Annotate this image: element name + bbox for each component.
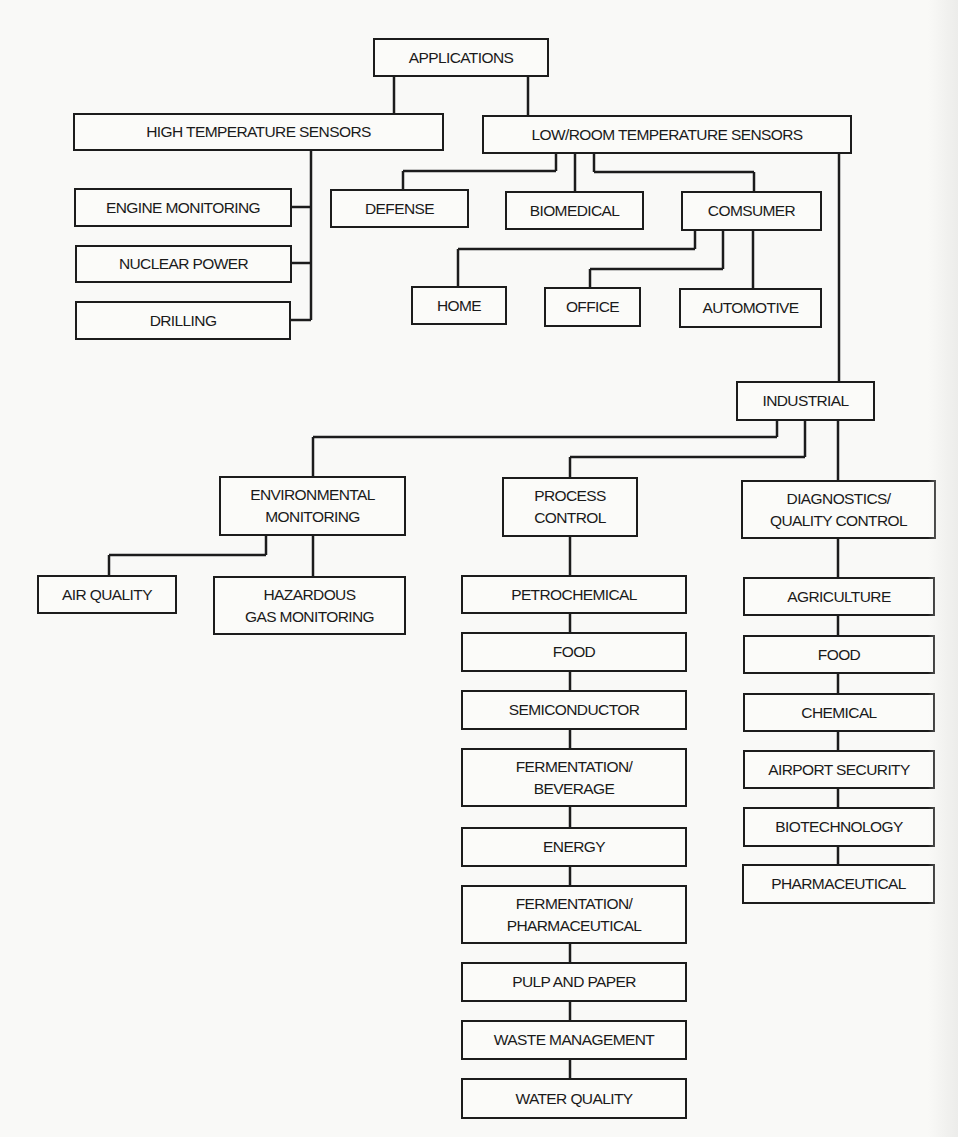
node-label: FOOD xyxy=(553,641,595,663)
page-edge-shadow xyxy=(928,0,958,1137)
node-label: HOME xyxy=(437,295,481,317)
node-agriculture: AGRICULTURE xyxy=(743,577,935,616)
node-label: NUCLEAR POWER xyxy=(119,253,248,275)
node-label: FOOD xyxy=(818,644,860,666)
node-label: DRILLING xyxy=(150,310,217,332)
node-label: PETROCHEMICAL xyxy=(511,584,637,606)
node-label-line1: ENVIRONMENTAL xyxy=(250,484,375,506)
node-label-line1: DIAGNOSTICS/ xyxy=(787,488,891,510)
node-label-line2: MONITORING xyxy=(265,506,359,528)
node-pharmaceutical: PHARMACEUTICAL xyxy=(742,864,935,904)
node-label: WASTE MANAGEMENT xyxy=(494,1029,654,1051)
node-process-control: PROCESS CONTROL xyxy=(502,477,638,537)
applications-tree-diagram: APPLICATIONS HIGH TEMPERATURE SENSORS EN… xyxy=(0,0,958,1137)
node-label: ENERGY xyxy=(543,836,605,858)
node-label: PULP AND PAPER xyxy=(512,971,636,993)
node-air-quality: AIR QUALITY xyxy=(37,575,177,614)
node-drilling: DRILLING xyxy=(75,301,291,340)
node-semiconductor: SEMICONDUCTOR xyxy=(461,690,687,730)
node-diagnostics-quality-control: DIAGNOSTICS/ QUALITY CONTROL xyxy=(741,480,936,539)
node-defense: DEFENSE xyxy=(330,189,469,228)
node-label: AGRICULTURE xyxy=(787,586,890,608)
node-pulp-and-paper: PULP AND PAPER xyxy=(461,962,687,1002)
node-biomedical: BIOMEDICAL xyxy=(505,191,644,230)
node-label: HIGH TEMPERATURE SENSORS xyxy=(146,121,370,143)
node-label-line1: HAZARDOUS xyxy=(264,584,356,606)
node-label-line2: QUALITY CONTROL xyxy=(770,510,907,532)
node-label: INDUSTRIAL xyxy=(762,390,848,412)
node-label: COMSUMER xyxy=(708,200,795,222)
node-label: SEMICONDUCTOR xyxy=(509,699,640,721)
node-engine-monitoring: ENGINE MONITORING xyxy=(74,188,292,227)
node-environmental-monitoring: ENVIRONMENTAL MONITORING xyxy=(219,476,406,536)
node-energy: ENERGY xyxy=(461,827,687,867)
node-label: ENGINE MONITORING xyxy=(106,197,260,219)
node-petrochemical: PETROCHEMICAL xyxy=(461,575,687,614)
node-fermentation-pharmaceutical: FERMENTATION/ PHARMACEUTICAL xyxy=(461,885,687,944)
node-water-quality: WATER QUALITY xyxy=(461,1078,687,1119)
node-label-line1: FERMENTATION/ xyxy=(516,756,632,778)
node-label-line2: GAS MONITORING xyxy=(245,606,374,628)
node-low-room-temperature-sensors: LOW/ROOM TEMPERATURE SENSORS xyxy=(482,115,852,154)
node-consumer: COMSUMER xyxy=(681,191,822,231)
node-label-line2: CONTROL xyxy=(534,507,606,529)
node-label: AIRPORT SECURITY xyxy=(768,759,909,781)
node-label: PHARMACEUTICAL xyxy=(771,873,906,895)
node-label: DEFENSE xyxy=(365,198,434,220)
node-fermentation-beverage: FERMENTATION/ BEVERAGE xyxy=(461,748,687,807)
node-label-line1: FERMENTATION/ xyxy=(516,893,632,915)
node-chemical: CHEMICAL xyxy=(743,693,935,732)
node-label: OFFICE xyxy=(566,296,619,318)
node-label: BIOTECHNOLOGY xyxy=(775,816,902,838)
node-applications: APPLICATIONS xyxy=(373,38,549,77)
node-industrial: INDUSTRIAL xyxy=(736,381,875,421)
node-label: AIR QUALITY xyxy=(62,584,152,606)
node-label-line2: PHARMACEUTICAL xyxy=(507,915,642,937)
node-office: OFFICE xyxy=(544,287,641,327)
node-waste-management: WASTE MANAGEMENT xyxy=(461,1020,687,1060)
node-label-line2: BEVERAGE xyxy=(534,778,614,800)
node-process-food: FOOD xyxy=(461,632,687,672)
node-label: LOW/ROOM TEMPERATURE SENSORS xyxy=(531,124,802,146)
node-nuclear-power: NUCLEAR POWER xyxy=(75,245,292,283)
node-airport-security: AIRPORT SECURITY xyxy=(743,750,935,789)
node-high-temperature-sensors: HIGH TEMPERATURE SENSORS xyxy=(73,113,444,151)
node-diagnostics-food: FOOD xyxy=(743,635,935,674)
node-label: AUTOMOTIVE xyxy=(702,297,798,319)
node-biotechnology: BIOTECHNOLOGY xyxy=(743,807,935,847)
node-automotive: AUTOMOTIVE xyxy=(679,288,822,328)
node-label-line1: PROCESS xyxy=(534,485,606,507)
node-home: HOME xyxy=(411,286,507,325)
node-label: APPLICATIONS xyxy=(409,47,514,69)
node-hazardous-gas-monitoring: HAZARDOUS GAS MONITORING xyxy=(213,576,406,635)
node-label: CHEMICAL xyxy=(801,702,876,724)
node-label: BIOMEDICAL xyxy=(530,200,620,222)
node-label: WATER QUALITY xyxy=(515,1088,632,1110)
